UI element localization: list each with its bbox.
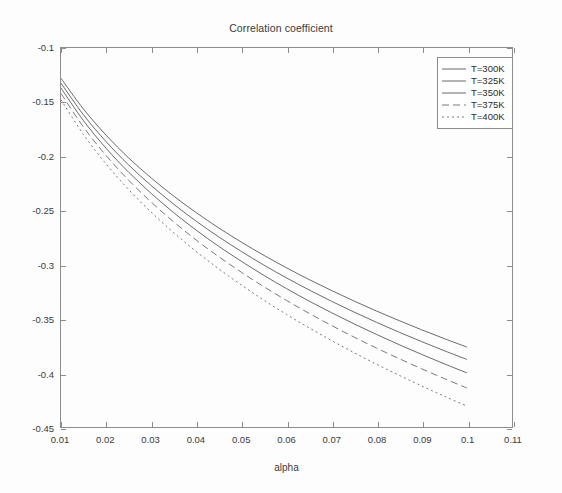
x-axis-tick-label: 0.09	[413, 434, 432, 445]
y-axis-tick-label: -0.35	[12, 314, 54, 325]
legend-item-label: T=350K	[471, 87, 505, 99]
x-axis-tick	[423, 422, 424, 427]
x-axis-tick	[378, 48, 379, 53]
series-line	[61, 78, 467, 347]
x-axis-tick-label: 0.03	[141, 434, 160, 445]
x-axis-tick	[333, 422, 334, 427]
series-line	[61, 88, 467, 373]
x-axis-tick-label: 0.06	[277, 434, 296, 445]
y-axis-tick	[61, 375, 66, 376]
series-line	[61, 93, 467, 388]
legend-item-label: T=300K	[471, 63, 505, 75]
x-axis-tick	[197, 422, 198, 427]
x-axis-tick	[288, 422, 289, 427]
x-axis-label: alpha	[60, 462, 513, 473]
series-line	[61, 83, 467, 359]
y-axis-tick	[507, 48, 512, 49]
x-axis-tick	[288, 48, 289, 53]
legend-item[interactable]: T=375K	[441, 99, 508, 111]
chart-title: Correlation coefficient	[0, 22, 562, 34]
y-axis-tick	[61, 320, 66, 321]
legend-item-label: T=400K	[471, 111, 505, 123]
x-axis-tick-label: 0.11	[504, 434, 522, 445]
y-axis-tick	[507, 320, 512, 321]
figure-canvas: Correlation coefficient alpha T=300KT=32…	[0, 0, 562, 493]
x-axis-tick	[514, 48, 515, 53]
x-axis-tick	[333, 48, 334, 53]
x-axis-tick	[106, 48, 107, 53]
y-axis-tick-label: -0.4	[12, 368, 54, 379]
legend-line-swatch	[441, 64, 467, 74]
y-axis-tick-label: -0.15	[12, 96, 54, 107]
series-line	[61, 100, 467, 406]
legend-item[interactable]: T=325K	[441, 75, 508, 87]
x-axis-tick-label: 0.07	[323, 434, 342, 445]
x-axis-tick	[469, 48, 470, 53]
y-axis-tick	[507, 211, 512, 212]
x-axis-tick	[152, 422, 153, 427]
y-axis-tick-label: -0.25	[12, 205, 54, 216]
legend-line-swatch	[441, 88, 467, 98]
y-axis-tick	[61, 429, 66, 430]
x-axis-tick-label: 0.08	[368, 434, 387, 445]
legend-line-swatch	[441, 76, 467, 86]
legend-item[interactable]: T=400K	[441, 111, 508, 123]
y-axis-tick	[61, 266, 66, 267]
y-axis-tick-label: -0.45	[12, 423, 54, 434]
legend-item-label: T=375K	[471, 99, 505, 111]
x-axis-tick-label: 0.05	[232, 434, 251, 445]
y-axis-tick	[61, 157, 66, 158]
x-axis-tick	[514, 422, 515, 427]
y-axis-tick	[61, 211, 66, 212]
x-axis-tick	[197, 48, 198, 53]
y-axis-tick	[507, 375, 512, 376]
legend: T=300KT=325KT=350KT=375KT=400K	[437, 57, 513, 129]
x-axis-tick	[106, 422, 107, 427]
y-axis-tick-label: -0.1	[12, 42, 54, 53]
x-axis-tick	[152, 48, 153, 53]
legend-item-label: T=325K	[471, 75, 505, 87]
y-axis-tick	[61, 48, 66, 49]
y-axis-tick	[507, 157, 512, 158]
x-axis-tick	[242, 48, 243, 53]
y-axis-tick-label: -0.2	[12, 150, 54, 161]
x-axis-tick-label: 0.02	[96, 434, 115, 445]
x-axis-tick	[423, 48, 424, 53]
x-axis-tick-label: 0.04	[187, 434, 206, 445]
x-axis-tick	[242, 422, 243, 427]
x-axis-tick	[378, 422, 379, 427]
y-axis-tick	[61, 102, 66, 103]
legend-item[interactable]: T=300K	[441, 63, 508, 75]
y-axis-tick	[507, 266, 512, 267]
x-axis-tick-label: 0.01	[51, 434, 70, 445]
y-axis-tick	[507, 429, 512, 430]
x-axis-tick-label: 0.1	[461, 434, 474, 445]
y-axis-tick-label: -0.3	[12, 259, 54, 270]
legend-item[interactable]: T=350K	[441, 87, 508, 99]
legend-line-swatch	[441, 112, 467, 122]
x-axis-tick	[469, 422, 470, 427]
x-axis-tick	[61, 422, 62, 427]
legend-line-swatch	[441, 100, 467, 110]
